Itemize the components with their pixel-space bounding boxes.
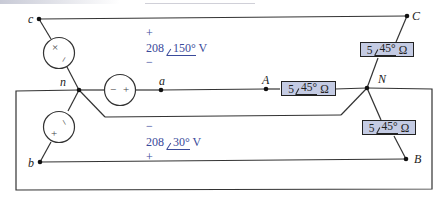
source-an-left-glyph: − bbox=[110, 84, 116, 95]
load-impedance-AN: 5 45° Ω bbox=[281, 81, 336, 96]
node-B bbox=[404, 157, 409, 162]
wire-neutral-N bbox=[341, 88, 367, 115]
vbn-magnitude: 208 bbox=[146, 135, 164, 149]
load-cn-angle: 45° bbox=[375, 43, 396, 56]
wire-load-N bbox=[335, 88, 367, 89]
load-nb-magnitude: 5 bbox=[369, 122, 375, 134]
label-node-C: C bbox=[412, 10, 420, 22]
source-an-right-glyph: + bbox=[123, 84, 129, 95]
source-bn-circle bbox=[44, 112, 75, 143]
source-cn-top-glyph: × bbox=[52, 42, 58, 53]
load-an-unit: Ω bbox=[320, 83, 329, 95]
wire-neutral-n bbox=[79, 90, 105, 117]
vcn-label: 208 150° V bbox=[146, 42, 207, 54]
circuit-diagram: × − − + − + c C n a A N b B + 208 150° V… bbox=[0, 0, 446, 199]
node-A bbox=[264, 87, 269, 92]
vbn-angle: 30° bbox=[167, 135, 190, 150]
vbn-minus-sign: − bbox=[146, 120, 153, 132]
load-cn-unit: Ω bbox=[399, 44, 408, 56]
label-node-n: n bbox=[60, 76, 66, 88]
vcn-magnitude: 208 bbox=[146, 41, 164, 55]
node-C bbox=[405, 14, 410, 19]
label-node-b: b bbox=[28, 157, 34, 169]
circuit-wires bbox=[0, 0, 446, 199]
wire-N-load-B bbox=[367, 88, 381, 120]
wire-neutral bbox=[105, 115, 341, 117]
wire-b-B bbox=[40, 159, 406, 162]
vbn-unit: V bbox=[193, 135, 202, 149]
label-node-B: B bbox=[414, 153, 421, 165]
node-a bbox=[159, 88, 164, 93]
load-an-angle: 45° bbox=[296, 82, 317, 95]
load-impedance-NB: 5 45° Ω bbox=[362, 120, 416, 135]
wire-source-b bbox=[40, 142, 51, 162]
vcn-minus-sign: − bbox=[146, 56, 153, 68]
wire-N-load-C bbox=[367, 58, 378, 88]
load-nb-angle: 45° bbox=[377, 121, 398, 134]
load-cn-magnitude: 5 bbox=[367, 44, 373, 56]
wire-n-source-b bbox=[68, 90, 79, 111]
load-an-magnitude: 5 bbox=[288, 83, 294, 95]
label-node-a: a bbox=[159, 75, 165, 87]
source-bn-bottom-glyph: + bbox=[51, 128, 57, 139]
vcn-plus-sign: + bbox=[146, 27, 153, 39]
vcn-unit: V bbox=[199, 41, 208, 55]
wire-load-B bbox=[394, 136, 406, 159]
load-nb-unit: Ω bbox=[401, 122, 410, 134]
wire-outer-loop bbox=[16, 88, 432, 190]
vbn-plus-sign: + bbox=[146, 151, 153, 163]
label-node-N: N bbox=[378, 73, 386, 85]
wire-c-C bbox=[39, 16, 407, 19]
node-n bbox=[77, 88, 82, 93]
wire-a-A bbox=[161, 89, 266, 90]
vbn-label: 208 30° V bbox=[146, 136, 201, 148]
node-b bbox=[38, 160, 43, 165]
node-N bbox=[365, 86, 370, 91]
vcn-angle: 150° bbox=[167, 41, 196, 56]
wire-load-C bbox=[396, 16, 407, 42]
label-node-A: A bbox=[262, 74, 269, 86]
label-node-c: c bbox=[28, 13, 33, 25]
load-impedance-CN: 5 45° Ω bbox=[360, 42, 414, 57]
wire-c-source bbox=[39, 19, 51, 39]
wire-source-n bbox=[67, 67, 79, 90]
node-c bbox=[37, 17, 42, 22]
